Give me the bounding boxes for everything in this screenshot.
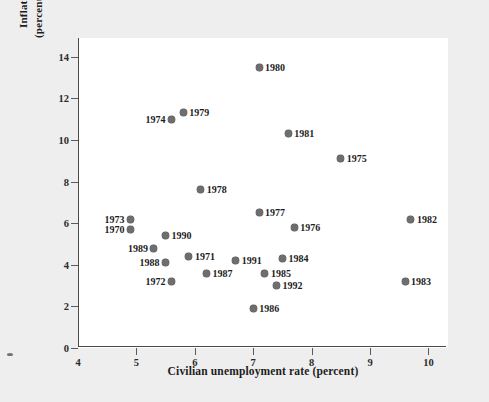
data-point-label: 1987 — [213, 269, 233, 279]
data-point-marker — [127, 226, 134, 233]
y-axis-tick — [71, 140, 78, 141]
x-axis-tick-label: 8 — [309, 357, 314, 368]
data-point-marker — [168, 278, 175, 285]
x-axis-tick — [428, 348, 429, 355]
data-point-marker — [256, 209, 263, 216]
y-axis-title-line-1: Inflation — [16, 0, 31, 38]
x-axis-tick — [312, 348, 313, 355]
data-point-marker — [127, 216, 134, 223]
y-axis-tick — [71, 223, 78, 224]
y-axis-tick-label: 12 — [59, 93, 70, 104]
y-axis-tick-label: 14 — [59, 51, 70, 62]
y-axis-title: Inflation (percent per year) — [16, 0, 56, 38]
data-point-label: 1988 — [140, 258, 160, 268]
data-point-marker — [285, 130, 292, 137]
data-point-label: 1974 — [145, 115, 165, 125]
data-point-marker — [407, 216, 414, 223]
data-point-label: 1982 — [417, 215, 437, 225]
data-point-marker — [162, 259, 169, 266]
data-point-marker — [185, 253, 192, 260]
data-point-marker — [402, 278, 409, 285]
data-point-marker — [203, 270, 210, 277]
x-axis-tick — [370, 348, 371, 355]
data-point-label: 1984 — [288, 254, 308, 264]
data-point-label: 1970 — [105, 225, 125, 235]
y-axis-tick-label: 4 — [64, 259, 69, 270]
data-point-marker — [162, 232, 169, 239]
y-axis-tick — [71, 98, 78, 99]
y-axis-tick-label: 0 — [64, 343, 69, 354]
x-axis-tick-label: 9 — [367, 357, 372, 368]
data-point-marker — [337, 155, 344, 162]
plot-axes: 0246810121445678910198019791974198119751… — [78, 38, 446, 348]
y-axis-tick — [71, 348, 78, 349]
x-axis-tick-label: 5 — [134, 357, 139, 368]
y-axis-tick — [71, 265, 78, 266]
data-point-marker — [256, 64, 263, 71]
data-point-label: 1991 — [242, 256, 262, 266]
x-axis-tick-label: 6 — [192, 357, 197, 368]
data-point-label: 1981 — [294, 129, 314, 139]
x-axis-tick-label: 10 — [423, 357, 434, 368]
data-point-label: 1989 — [128, 244, 148, 254]
y-axis-tick — [71, 57, 78, 58]
data-point-label: 1972 — [145, 277, 165, 287]
y-axis-tick-label: 6 — [64, 218, 69, 229]
data-point-label: 1985 — [271, 269, 291, 279]
data-point-marker — [291, 224, 298, 231]
data-point-label: 1977 — [265, 208, 285, 218]
data-point-marker — [180, 109, 187, 116]
data-point-marker — [279, 255, 286, 262]
data-point-marker — [273, 282, 280, 289]
y-axis-tick — [71, 182, 78, 183]
data-point-label: 1986 — [259, 304, 279, 314]
data-point-label: 1975 — [347, 154, 367, 164]
x-axis-tick-label: 4 — [75, 357, 80, 368]
data-point-label: 1980 — [265, 63, 285, 73]
image-artifact-speck — [7, 353, 13, 356]
x-axis-tick — [253, 348, 254, 355]
y-axis-tick — [71, 306, 78, 307]
y-axis-tick-label: 2 — [64, 301, 69, 312]
data-point-marker — [232, 257, 239, 264]
data-point-label: 1992 — [283, 281, 303, 291]
x-axis-tick-label: 7 — [251, 357, 256, 368]
y-axis-tick-label: 10 — [59, 134, 70, 145]
y-axis-tick-label: 8 — [64, 176, 69, 187]
data-point-marker — [168, 116, 175, 123]
data-point-label: 1990 — [172, 231, 192, 241]
data-point-label: 1983 — [411, 277, 431, 287]
data-point-label: 1973 — [105, 215, 125, 225]
x-axis-tick — [136, 348, 137, 355]
data-point-label: 1978 — [207, 185, 227, 195]
data-point-label: 1971 — [195, 252, 215, 262]
data-point-marker — [250, 305, 257, 312]
data-point-marker — [150, 245, 157, 252]
data-point-marker — [261, 270, 268, 277]
y-axis-title-line-2: (percent per year) — [31, 0, 46, 38]
x-axis-tick — [195, 348, 196, 355]
scatter-plot-figure: 0246810121445678910198019791974198119751… — [0, 0, 489, 402]
data-point-label: 1976 — [300, 223, 320, 233]
data-point-marker — [197, 186, 204, 193]
data-point-label: 1979 — [189, 108, 209, 118]
